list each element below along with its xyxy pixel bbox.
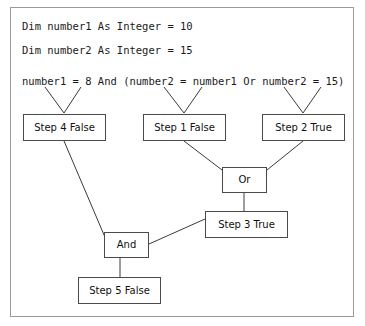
node-or-operator-label: Or <box>239 175 251 185</box>
node-step-4: Step 4 False <box>23 114 106 141</box>
node-or-operator: Or <box>222 167 267 193</box>
node-step-2: Step 2 True <box>262 114 345 141</box>
node-step-5: Step 5 False <box>78 277 161 304</box>
node-step-3-label: Step 3 True <box>218 220 275 230</box>
node-step-1-label: Step 1 False <box>154 123 215 133</box>
node-step-5-label: Step 5 False <box>89 286 150 296</box>
node-step-2-label: Step 2 True <box>275 123 332 133</box>
node-and-operator-label: And <box>117 240 137 250</box>
node-step-3: Step 3 True <box>205 211 288 238</box>
code-line-declaration-1: Dim number1 As Integer = 10 <box>22 20 193 32</box>
code-line-declaration-2: Dim number2 As Integer = 15 <box>22 44 193 56</box>
node-step-4-label: Step 4 False <box>34 123 95 133</box>
node-step-1: Step 1 False <box>143 114 226 141</box>
node-and-operator: And <box>104 232 149 258</box>
diagram-canvas: Dim number1 As Integer = 10 Dim number2 … <box>0 0 365 326</box>
code-line-expression: number1 = 8 And (number2 = number1 Or nu… <box>22 75 344 87</box>
